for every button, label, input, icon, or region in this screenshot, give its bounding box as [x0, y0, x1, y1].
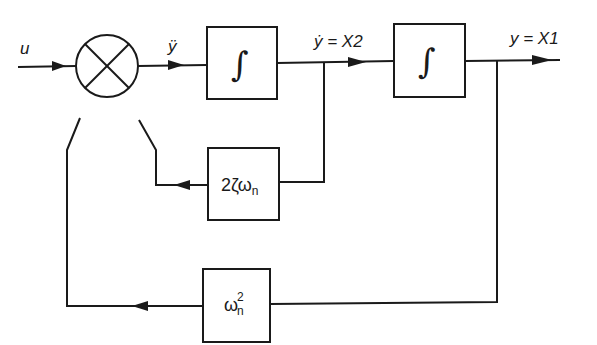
- arrow-icon: [174, 180, 190, 190]
- stiffness-gain-block: ω 2 n: [203, 269, 270, 342]
- ydd-label: ÿ: [167, 37, 178, 56]
- input-label-u: u: [20, 39, 30, 58]
- arrow-icon: [532, 55, 552, 65]
- x2-label: ẏ = X2: [313, 32, 363, 51]
- arrow-icon: [52, 61, 66, 71]
- stiffness-gain-label: ω: [224, 295, 238, 315]
- arrow-icon: [168, 60, 184, 70]
- ydd-signal: ÿ: [138, 37, 207, 70]
- integral-icon: ∫: [231, 44, 249, 84]
- block-diagram: u ÿ ∫ ẏ = X2 ∫ y = X1: [0, 0, 597, 345]
- integrator-1-block: ∫: [207, 27, 277, 99]
- arrow-icon: [348, 57, 366, 67]
- x1-label: y = X1: [509, 29, 559, 48]
- stiffness-gain-superscript: 2: [237, 290, 244, 304]
- integral-icon: ∫: [418, 41, 436, 81]
- damping-gain-block: 2ζωn: [208, 148, 279, 220]
- summing-junction: [76, 35, 138, 97]
- input-signal: u: [18, 39, 76, 71]
- x2-signal: ẏ = X2: [277, 32, 394, 67]
- arrow-icon: [132, 301, 148, 311]
- stiffness-gain-subscript: n: [237, 304, 244, 318]
- x1-output-signal: y = X1: [465, 29, 560, 65]
- integrator-2-block: ∫: [394, 24, 465, 97]
